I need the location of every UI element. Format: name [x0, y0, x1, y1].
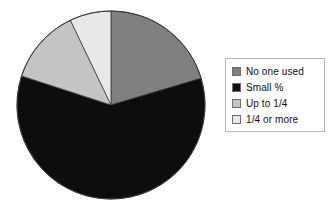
legend-swatch-icon: [232, 115, 241, 124]
legend-item-one-quarter-or-more[interactable]: 1/4 or more: [232, 111, 319, 127]
legend-item-label: Up to 1/4: [246, 98, 287, 109]
legend-item-label: Small %: [246, 82, 283, 93]
pie-svg: [10, 6, 215, 206]
legend-item-label: 1/4 or more: [246, 114, 298, 125]
legend-item-label: No one used: [246, 66, 304, 77]
pie-slice-group: [17, 11, 205, 199]
legend-swatch-icon: [232, 83, 241, 92]
chart-legend: No one used Small % Up to 1/4 1/4 or mor…: [225, 58, 325, 132]
legend-item-small-percent[interactable]: Small %: [232, 79, 319, 95]
legend-item-no-one-used[interactable]: No one used: [232, 63, 319, 79]
pie-chart-figure: No one used Small % Up to 1/4 1/4 or mor…: [0, 0, 333, 218]
legend-swatch-icon: [232, 99, 241, 108]
pie-plot-area: [10, 6, 215, 206]
chart-title: [0, 0, 333, 2]
legend-item-up-to-one-quarter[interactable]: Up to 1/4: [232, 95, 319, 111]
legend-swatch-icon: [232, 67, 241, 76]
